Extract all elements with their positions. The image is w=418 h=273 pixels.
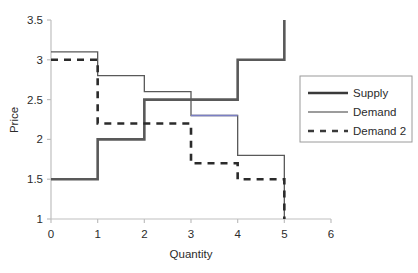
data-series-layer bbox=[51, 20, 284, 219]
x-tick-label: 1 bbox=[94, 228, 100, 240]
x-axis-title: Quantity bbox=[170, 248, 213, 260]
series-line bbox=[51, 52, 284, 219]
x-tick-label: 2 bbox=[141, 228, 147, 240]
x-tick-label: 4 bbox=[234, 228, 241, 240]
x-axis-ticks bbox=[51, 219, 331, 223]
chart-canvas: 11.522.533.5 0123456 Price Quantity Supp… bbox=[0, 0, 418, 273]
y-tick-label: 1.5 bbox=[27, 173, 43, 185]
y-tick-label: 2.5 bbox=[27, 94, 43, 106]
chart-legend: SupplyDemandDemand 2 bbox=[300, 76, 412, 142]
y-axis-title: Price bbox=[8, 107, 20, 133]
y-tick-label: 3 bbox=[37, 54, 43, 66]
legend-label: Demand 2 bbox=[353, 125, 406, 137]
x-tick-label: 3 bbox=[188, 228, 194, 240]
y-tick-label: 1 bbox=[37, 213, 43, 225]
y-tick-label: 3.5 bbox=[27, 14, 43, 26]
step-chart: 11.522.533.5 0123456 Price Quantity Supp… bbox=[0, 0, 418, 273]
legend-label: Demand bbox=[353, 106, 396, 118]
series-line bbox=[51, 60, 284, 219]
x-tick-label: 0 bbox=[48, 228, 54, 240]
series-demand-2 bbox=[51, 60, 284, 219]
axes bbox=[47, 20, 331, 223]
legend-label: Supply bbox=[353, 87, 388, 99]
x-tick-label: 5 bbox=[281, 228, 287, 240]
y-tick-label: 2 bbox=[37, 133, 43, 145]
x-tick-label: 6 bbox=[328, 228, 334, 240]
x-axis-tick-labels: 0123456 bbox=[48, 228, 334, 240]
y-axis-tick-labels: 11.522.533.5 bbox=[27, 14, 43, 225]
series-demand bbox=[51, 52, 284, 219]
